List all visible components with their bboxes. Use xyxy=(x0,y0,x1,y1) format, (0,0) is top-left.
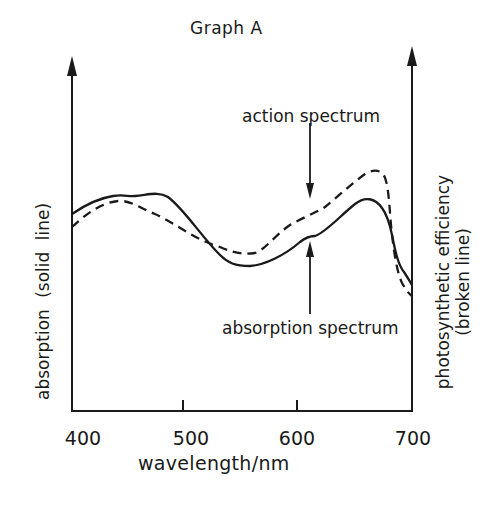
y-axis-label-right-line2: (broken line) xyxy=(453,152,473,412)
x-tick-label-600: 600 xyxy=(267,427,327,449)
annotation-absorption-spectrum: absorption spectrum xyxy=(222,318,399,338)
left-axis-arrow-icon xyxy=(67,56,77,76)
x-tick-label-400: 400 xyxy=(53,427,113,449)
right-axis-arrow-icon xyxy=(407,46,417,66)
up-arrow-icon xyxy=(306,241,314,257)
y-axis-label-right-line1: photosynthetic efficiency xyxy=(433,152,453,412)
annotation-action-spectrum: action spectrum xyxy=(242,106,380,126)
action-spectrum-line xyxy=(72,171,412,296)
chart-title: Graph A xyxy=(190,18,263,38)
y-axis-label-right: photosynthetic efficiency (broken line) xyxy=(433,152,473,412)
down-arrow-icon xyxy=(306,183,314,199)
absorption-spectrum-line xyxy=(72,194,412,285)
y-axis-label-left: absorption (solid line) xyxy=(33,203,53,400)
x-tick-label-700: 700 xyxy=(383,427,443,449)
x-axis-label: wavelength/nm xyxy=(138,452,290,474)
x-tick-label-500: 500 xyxy=(161,427,221,449)
